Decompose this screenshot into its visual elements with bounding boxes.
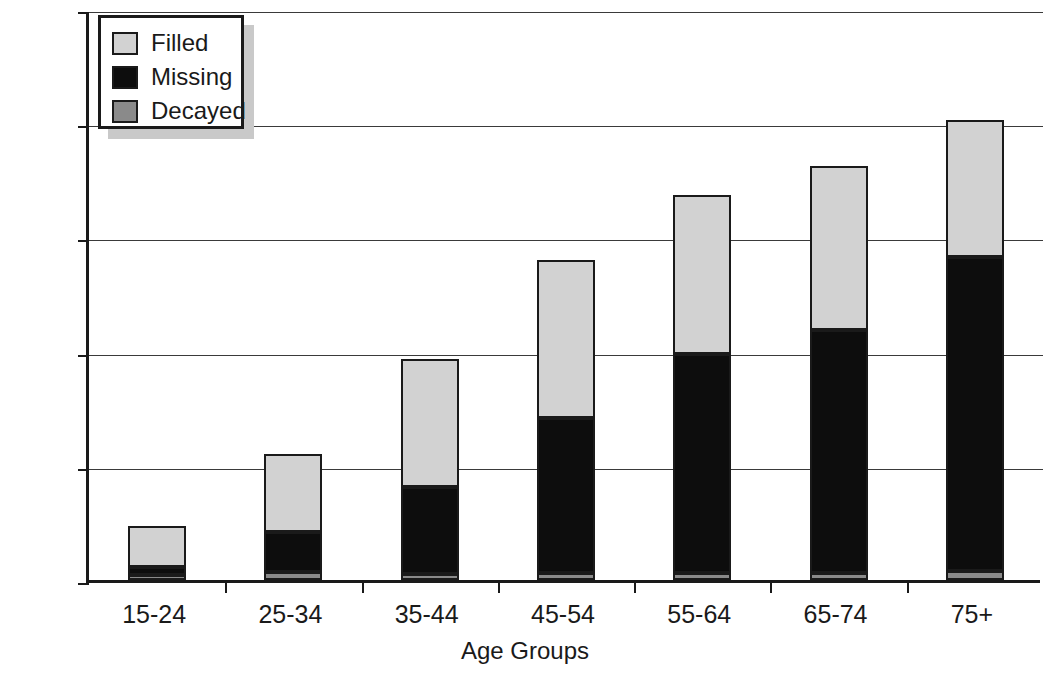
y-tick-mark [78,583,89,585]
x-tick-label: 55-64 [631,600,767,629]
bar-segment-missing[interactable] [264,532,322,572]
x-tick-label: 65-74 [767,600,903,629]
bar-segment-filled[interactable] [946,120,1004,256]
y-tick-mark [78,240,89,242]
x-tick-label: 45-54 [495,600,631,629]
bar-segment-decayed[interactable] [673,573,731,580]
bar-segment-filled[interactable] [264,454,322,532]
bar-segment-filled[interactable] [401,359,459,487]
bar-segment-missing[interactable] [537,418,595,573]
bar-segment-decayed[interactable] [810,573,868,580]
x-tick-mark [362,580,364,593]
bar-segment-filled[interactable] [537,260,595,418]
x-tick-label: 35-44 [359,600,495,629]
legend-item[interactable]: Filled [112,26,227,60]
x-tick-mark [498,580,500,593]
bar-stack[interactable] [673,195,731,580]
legend-swatch-icon [112,32,138,55]
bar-stack[interactable] [946,120,1004,580]
y-tick-mark [78,12,89,14]
bar-segment-missing[interactable] [673,354,731,573]
legend-item[interactable]: Decayed [112,94,227,128]
x-tick-mark [770,580,772,593]
y-tick-mark [78,469,89,471]
bar-segment-missing[interactable] [810,330,868,573]
x-tick-mark [907,580,909,593]
x-tick-label: 15-24 [86,600,222,629]
chart-legend: FilledMissingDecayed [98,15,244,129]
y-tick-mark [78,355,89,357]
y-tick-mark [78,126,89,128]
legend-label: Filled [151,31,208,55]
legend-swatch-icon [112,66,138,89]
bar-segment-decayed[interactable] [537,573,595,580]
bar-stack[interactable] [810,166,868,580]
legend-label: Decayed [151,99,246,123]
gridline [89,240,1043,241]
bar-segment-filled[interactable] [128,526,186,567]
x-tick-mark [225,580,227,593]
legend-label: Missing [151,65,232,89]
bar-segment-decayed[interactable] [264,572,322,580]
x-axis-title: Age Groups [0,637,1050,665]
x-tick-label: 25-34 [222,600,358,629]
bar-segment-decayed[interactable] [128,575,186,580]
legend-swatch-icon [112,100,138,123]
bar-segment-filled[interactable] [810,166,868,330]
bar-stack[interactable] [128,526,186,580]
legend-item[interactable]: Missing [112,60,227,94]
bar-segment-missing[interactable] [128,567,186,575]
bar-segment-missing[interactable] [401,487,459,574]
chart-container: Mean DMFS Age Groups 020406080100 15-242… [0,0,1050,673]
x-tick-label: 75+ [904,600,1040,629]
bar-segment-filled[interactable] [673,195,731,355]
gridline [89,12,1043,13]
bar-segment-missing[interactable] [946,257,1004,572]
bar-segment-decayed[interactable] [946,571,1004,580]
bar-stack[interactable] [537,260,595,580]
bar-stack[interactable] [401,359,459,580]
bar-segment-decayed[interactable] [401,574,459,580]
x-tick-mark [634,580,636,593]
bar-stack[interactable] [264,454,322,580]
